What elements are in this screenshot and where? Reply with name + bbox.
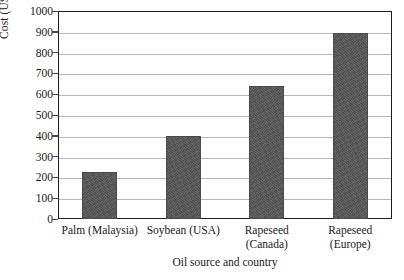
x-axis-category-label: Palm (Malaysia) <box>58 224 142 238</box>
bar-series <box>58 11 392 219</box>
x-axis-title: Oil source and country <box>58 256 392 268</box>
bar <box>249 86 284 219</box>
x-axis-category-label: Rapeseed(Canada) <box>225 224 309 251</box>
x-axis-category-label-line: (Europe) <box>309 238 393 252</box>
y-axis-tick: 900 <box>36 25 58 39</box>
x-axis-category-label: Rapeseed(Europe) <box>309 224 393 251</box>
y-axis-tick: 200 <box>36 170 58 184</box>
y-axis-tick: 100 <box>36 191 58 205</box>
y-axis-tick: 800 <box>36 46 58 60</box>
y-axis-tick: 500 <box>36 108 58 122</box>
y-axis-tick: 1000 <box>30 4 58 18</box>
x-axis-category-label-line: Rapeseed <box>225 224 309 238</box>
y-axis-tick: 0 <box>47 212 58 226</box>
x-axis-category-label-line: (Canada) <box>225 238 309 252</box>
bar <box>166 136 201 219</box>
bar-chart-figure: Cost (USD/ton) 1000900800700600500400300… <box>0 0 404 280</box>
x-axis-category-labels: Palm (Malaysia)Soybean (USA)Rapeseed(Can… <box>58 224 392 260</box>
x-axis-category-label-line: Rapeseed <box>309 224 393 238</box>
x-axis-category-label-line: Soybean (USA) <box>142 224 226 238</box>
y-axis-ticks: 10009008007006005004003002001000 <box>0 0 58 230</box>
y-axis-tick: 600 <box>36 87 58 101</box>
x-axis-category-label: Soybean (USA) <box>142 224 226 238</box>
bar <box>333 33 368 219</box>
y-axis-tick: 300 <box>36 150 58 164</box>
y-axis-tick: 400 <box>36 129 58 143</box>
x-axis-category-label-line: Palm (Malaysia) <box>58 224 142 238</box>
y-axis-tick: 700 <box>36 66 58 80</box>
bar <box>82 172 117 219</box>
